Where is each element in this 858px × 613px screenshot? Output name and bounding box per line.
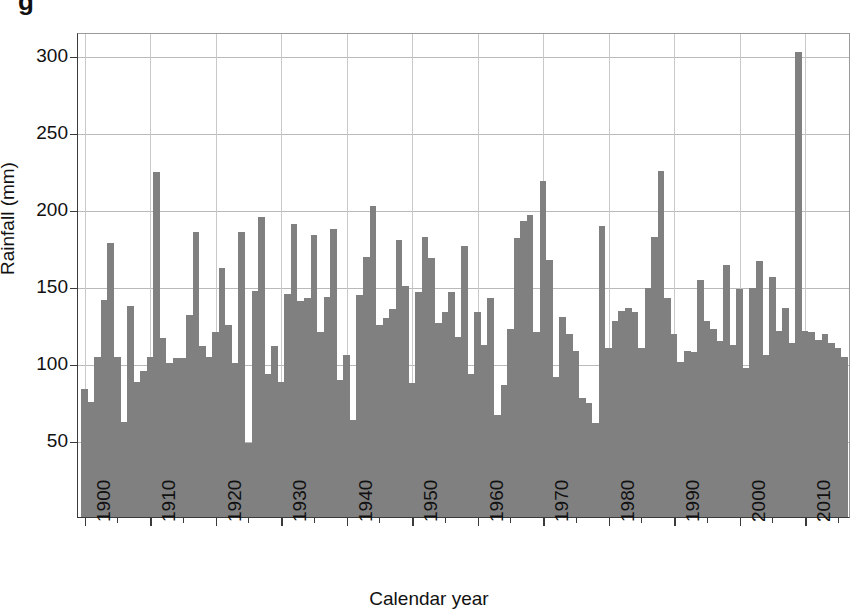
x-axis-tick-label: 1970	[551, 480, 573, 522]
y-axis-tick-label: 150	[10, 276, 68, 298]
y-axis-tick-label: 250	[10, 122, 68, 144]
bar	[756, 261, 763, 517]
x-axis-tick-label: 1980	[617, 480, 639, 522]
y-axis-tick-label: 300	[10, 45, 68, 67]
y-axis-tick-labels: 50100150200250300	[0, 33, 68, 518]
bar	[527, 215, 534, 517]
bar	[265, 374, 272, 517]
y-axis-tick-label: 100	[10, 353, 68, 375]
bar	[782, 308, 789, 517]
y-axis-tick	[70, 288, 78, 289]
bar	[704, 321, 711, 517]
x-axis-tick-label: 1900	[93, 480, 115, 522]
x-axis-tick-label: 1950	[420, 480, 442, 522]
x-axis-tick-label: 2000	[748, 480, 770, 522]
bar	[317, 332, 324, 517]
bar	[422, 237, 429, 517]
x-axis-tick-label: 1930	[289, 480, 311, 522]
x-axis-title: Calendar year	[0, 588, 858, 610]
x-axis-tick-labels: 1900191019201930194019501960197019801990…	[77, 522, 850, 584]
chart-page: g Rainfall (mm) 50100150200250300 190019…	[0, 0, 858, 613]
plot-area	[77, 33, 850, 518]
x-axis-tick-label: 1990	[682, 480, 704, 522]
bar	[474, 312, 481, 517]
bar	[651, 237, 658, 517]
y-axis-tick-label: 50	[10, 430, 68, 452]
bar	[343, 355, 350, 517]
bar	[730, 345, 737, 517]
x-axis-tick-label: 1940	[355, 480, 377, 522]
y-axis-tick	[70, 211, 78, 212]
bar	[396, 240, 403, 517]
y-axis-tick	[70, 442, 78, 443]
x-axis-tick-label: 1960	[486, 480, 508, 522]
bar	[193, 232, 200, 517]
bar	[835, 348, 842, 517]
bar	[605, 348, 612, 517]
bar	[291, 224, 298, 517]
bar	[841, 357, 848, 517]
y-axis-tick	[70, 365, 78, 366]
bar	[140, 371, 147, 517]
y-axis-tick	[70, 134, 78, 135]
x-axis-tick-label: 1920	[224, 480, 246, 522]
bar	[370, 206, 377, 517]
bar	[579, 398, 586, 517]
y-axis-tick-label: 200	[10, 199, 68, 221]
x-axis-tick-label: 2010	[813, 480, 835, 522]
bar	[448, 292, 455, 517]
x-axis-tick-label: 1910	[158, 480, 180, 522]
bar-layer	[78, 34, 849, 517]
caption-fragment-text: g	[18, 0, 34, 17]
bar	[245, 443, 252, 517]
y-axis-tick	[70, 57, 78, 58]
